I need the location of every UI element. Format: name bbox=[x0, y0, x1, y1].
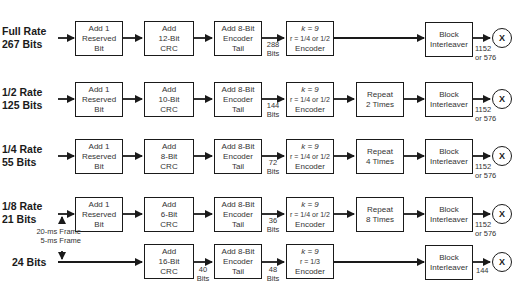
encoder-tail-block: Add 8-Bit Encoder Tail bbox=[214, 82, 262, 117]
multiplier-node: X bbox=[492, 28, 512, 48]
convolutional-encoder-block: k = 9r = 1/3Encoder bbox=[286, 244, 334, 279]
reserved-bit-block: Add 1 Reserved Bit bbox=[75, 82, 123, 117]
encoder-input-bits-label: 144 Bits bbox=[262, 102, 284, 119]
crc-block: Add 16-Bit CRC bbox=[144, 244, 194, 279]
encoder-input-bits-label: 72 Bits bbox=[262, 159, 284, 176]
eighth-rate-input-label: 1/8 Rate 21 Bits bbox=[2, 200, 42, 226]
block-interleaver: Block Interleaver bbox=[425, 139, 473, 174]
constraint-length: k = 9 bbox=[301, 200, 319, 209]
encoder-name: Encoder bbox=[295, 162, 325, 171]
repeat-block: Repeat 4 Times bbox=[356, 139, 404, 174]
output-bits-label: 1152 or 576 bbox=[475, 163, 496, 180]
encoder-input-bits-label: 48 Bits bbox=[262, 266, 284, 283]
encoder-tail-block: Add 8-Bit Encoder Tail bbox=[214, 139, 262, 174]
output-bits-label: 144 bbox=[476, 267, 489, 276]
crc-block: Add 10-Bit CRC bbox=[144, 82, 194, 117]
block-interleaver: Block Interleaver bbox=[425, 245, 473, 280]
frame-20ms-label: 20-ms Frame bbox=[16, 227, 81, 236]
convolutional-encoder-block: k = 9r = 1/4 or 1/2Encoder bbox=[286, 197, 334, 232]
encoder-tail-block: Add 8-Bit Encoder Tail bbox=[214, 21, 262, 56]
multiplier-node: X bbox=[492, 89, 512, 109]
encoder-name: Encoder bbox=[295, 267, 325, 276]
code-rate: r = 1/4 or 1/2 bbox=[290, 153, 330, 160]
output-bits-label: 1152 or 576 bbox=[475, 106, 496, 123]
reserved-bit-block: Add 1 Reserved Bit bbox=[75, 139, 123, 174]
encoder-tail-block: Add 8-Bit Encoder Tail bbox=[214, 197, 262, 232]
encoder-input-bits-label: 36 Bits bbox=[262, 217, 284, 234]
convolutional-encoder-block: k = 9r = 1/4 or 1/2Encoder bbox=[286, 82, 334, 117]
code-rate: r = 1/4 or 1/2 bbox=[290, 96, 330, 103]
crc-block: Add 6-Bit CRC bbox=[144, 197, 194, 232]
reserved-bit-block: Add 1 Reserved Bit bbox=[75, 21, 123, 56]
encoder-name: Encoder bbox=[295, 44, 325, 53]
frame-5ms-label: 5-ms Frame bbox=[16, 236, 81, 245]
block-interleaver: Block Interleaver bbox=[425, 82, 473, 117]
code-rate: r = 1/4 or 1/2 bbox=[290, 211, 330, 218]
convolutional-encoder-block: k = 9r = 1/4 or 1/2Encoder bbox=[286, 139, 334, 174]
constraint-length: k = 9 bbox=[301, 24, 319, 33]
constraint-length: k = 9 bbox=[301, 85, 319, 94]
encoder-name: Encoder bbox=[295, 105, 325, 114]
quarter-rate-input-label: 1/4 Rate 55 Bits bbox=[2, 143, 42, 169]
full-rate-input-label: Full Rate 267 Bits bbox=[2, 25, 46, 51]
multiplier-node: X bbox=[492, 146, 512, 166]
repeat-block: Repeat 8 Times bbox=[356, 197, 404, 232]
constraint-length: k = 9 bbox=[301, 142, 319, 151]
code-rate: r = 1/3 bbox=[300, 258, 320, 265]
reserved-bit-block: Add 1 Reserved Bit bbox=[75, 197, 123, 232]
half-rate-input-label: 1/2 Rate 125 Bits bbox=[2, 86, 42, 112]
multiplier-node: X bbox=[492, 204, 512, 224]
block-interleaver: Block Interleaver bbox=[425, 22, 473, 57]
24-bits-input-label: 24 Bits bbox=[12, 256, 46, 269]
multiplier-node: X bbox=[492, 252, 512, 272]
crc-block: Add 12-Bit CRC bbox=[144, 21, 194, 56]
repeat-block: Repeat 2 Times bbox=[356, 82, 404, 117]
code-rate: r = 1/4 or 1/2 bbox=[290, 35, 330, 42]
encoder-tail-block: Add 8-Bit Encoder Tail bbox=[214, 244, 262, 279]
output-bits-label: 1152 or 576 bbox=[475, 45, 496, 62]
crc-output-bits-label: 40 Bits bbox=[194, 266, 212, 283]
encoder-name: Encoder bbox=[295, 220, 325, 229]
block-interleaver: Block Interleaver bbox=[425, 197, 473, 232]
crc-block: Add 8-Bit CRC bbox=[144, 139, 194, 174]
convolutional-encoder-block: k = 9r = 1/4 or 1/2Encoder bbox=[286, 21, 334, 56]
encoder-input-bits-label: 288 Bits bbox=[262, 41, 284, 58]
constraint-length: k = 9 bbox=[301, 247, 319, 256]
output-bits-label: 1152 or 576 bbox=[475, 221, 496, 238]
